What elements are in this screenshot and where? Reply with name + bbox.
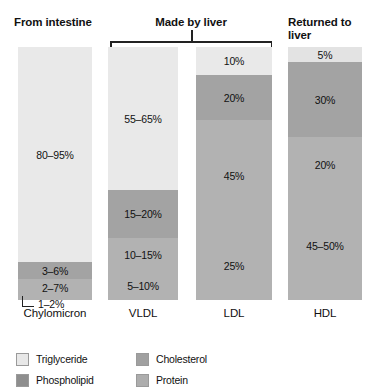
legend-label: Triglyceride — [36, 353, 87, 365]
lipoprotein-composition-chart: From intestine Made by liver Returned to… — [0, 0, 374, 392]
bar-segment-label: 15–20% — [124, 208, 161, 220]
bar-segment-ldl-phospholipid[interactable]: 45% — [196, 120, 272, 232]
legend-label: Cholesterol — [156, 353, 207, 365]
bar-segment-hdl-cholesterol[interactable]: 30% — [288, 62, 362, 137]
group-header-made-by-liver: Made by liver — [108, 16, 274, 29]
bar-segment-hdl-phospholipid[interactable]: 20% — [288, 137, 362, 192]
bar-segment-label: 55–65% — [124, 113, 161, 125]
bar-segment-label: 2–7% — [42, 282, 68, 294]
bracket-span — [110, 41, 272, 43]
category-label-hdl: HDL — [286, 306, 364, 320]
legend-item-phospholipid[interactable]: Phospholipid — [16, 370, 136, 390]
bar-segment-ldl-protein[interactable]: 25% — [196, 232, 272, 300]
legend-item-protein[interactable]: Protein — [136, 370, 256, 390]
bar-segment-chylomicron-phospholipid[interactable]: 2–7% — [18, 279, 92, 296]
bar-column-hdl[interactable]: 5%30%20%45–50% — [288, 47, 362, 300]
bar-segment-label: 45% — [224, 170, 244, 182]
bar-segment-vldl-cholesterol[interactable]: 15–20% — [108, 190, 178, 238]
legend-swatch-cholesterol — [136, 353, 149, 366]
bar-segment-label: 10–15% — [124, 249, 161, 261]
bar-segment-label: 20% — [224, 92, 244, 104]
bar-column-vldl[interactable]: 55–65%15–20%10–15%5–10% — [108, 47, 178, 300]
group-header-returned-to-liver: Returned to liver — [288, 16, 368, 42]
bar-segment-chylomicron-cholesterol[interactable]: 3–6% — [18, 262, 92, 279]
bar-segment-chylomicron-triglyceride[interactable]: 80–95% — [18, 47, 92, 262]
legend-label: Protein — [156, 374, 188, 386]
made-by-liver-bracket — [110, 36, 272, 47]
bar-segment-vldl-protein[interactable]: 5–10% — [108, 271, 178, 300]
bar-column-ldl[interactable]: 10%20%45%25% — [196, 47, 272, 300]
legend: TriglycerideCholesterolPhospholipidProte… — [16, 349, 316, 390]
legend-item-triglyceride[interactable]: Triglyceride — [16, 349, 136, 369]
bar-segment-ldl-cholesterol[interactable]: 20% — [196, 75, 272, 120]
bar-segment-label: 25% — [224, 260, 244, 272]
bar-segment-ldl-triglyceride[interactable]: 10% — [196, 47, 272, 75]
bar-segment-label: 5% — [318, 49, 333, 61]
bar-segment-hdl-protein[interactable]: 45–50% — [288, 192, 362, 300]
category-label-ldl: LDL — [194, 306, 274, 320]
bar-segment-label: 10% — [224, 55, 244, 67]
category-label-chylomicron: Chylomicron — [6, 306, 104, 320]
bar-segment-hdl-triglyceride[interactable]: 5% — [288, 47, 362, 62]
clipped-title-strip — [0, 0, 374, 7]
bar-segment-vldl-triglyceride[interactable]: 55–65% — [108, 47, 178, 190]
legend-label: Phospholipid — [36, 374, 94, 386]
bar-column-chylomicron[interactable]: 80–95%3–6%2–7% — [18, 47, 92, 300]
legend-swatch-phospholipid — [16, 374, 29, 387]
legend-item-cholesterol[interactable]: Cholesterol — [136, 349, 256, 369]
bar-segment-label: 3–6% — [42, 265, 68, 277]
bar-segment-vldl-phospholipid[interactable]: 10–15% — [108, 238, 178, 271]
bar-segment-label: 45–50% — [306, 240, 343, 252]
bar-segment-label: 20% — [315, 159, 335, 171]
bar-segment-label: 30% — [315, 94, 335, 106]
bracket-tick — [191, 30, 193, 41]
legend-swatch-triglyceride — [16, 353, 29, 366]
bar-segment-label: 5–10% — [127, 280, 159, 292]
bar-segment-label: 80–95% — [36, 149, 73, 161]
category-label-vldl: VLDL — [103, 306, 183, 320]
legend-swatch-protein — [136, 374, 149, 387]
